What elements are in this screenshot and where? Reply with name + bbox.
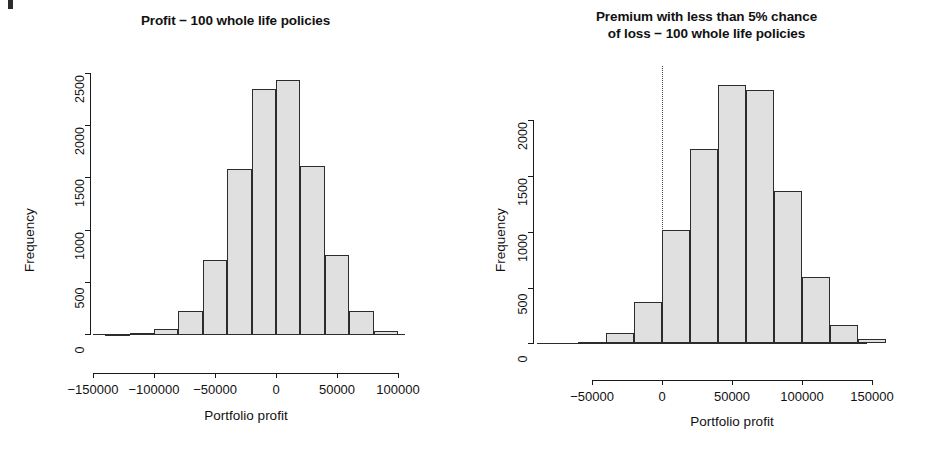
x-tick-50000-right	[732, 380, 733, 385]
histogram-bar	[105, 334, 129, 336]
chart-title-right-line1: Premium with less than 5% chance	[471, 8, 942, 25]
histogram-bar	[374, 331, 398, 335]
y-axis-line-right	[533, 120, 534, 344]
y-tick-label-500-right: 500	[516, 289, 530, 319]
x-tick-n50000-right	[592, 380, 593, 385]
y-tick-label-1500-right: 1500	[516, 177, 530, 207]
chart-title-left: Profit − 100 whole life policies	[0, 12, 471, 29]
histogram-bar	[203, 260, 227, 335]
y-tick-label-2000-left: 2000	[73, 126, 87, 156]
y-tick-label-1500-left: 1500	[73, 178, 87, 208]
x-tick-n50000-left	[215, 373, 216, 378]
x-tick-100000-left	[398, 373, 399, 378]
y-axis-label-left: Frequency	[22, 208, 37, 272]
x-tick-label-50000-right: 50000	[692, 389, 772, 404]
y-axis-line-left	[90, 73, 91, 335]
x-tick-n150000-left	[93, 373, 94, 378]
histogram-bar	[830, 325, 858, 343]
x-tick-label-100000-left: 100000	[358, 382, 438, 397]
y-tick-label-2000-right: 2000	[516, 121, 530, 151]
histogram-bar	[300, 166, 324, 335]
x-tick-0-left	[276, 373, 277, 378]
y-tick-label-0-right: 0	[516, 344, 530, 374]
histogram-bar	[178, 311, 202, 336]
histogram-bar	[662, 230, 690, 343]
y-axis-label-right: Frequency	[493, 208, 508, 272]
histogram-bar	[606, 333, 634, 343]
y-tick-label-1000-left: 1000	[73, 231, 87, 261]
x-tick-0-right	[662, 380, 663, 385]
figure-container: Profit − 100 whole life policies Frequen…	[0, 0, 943, 449]
y-tick-label-0-left: 0	[73, 335, 87, 365]
x-axis-label-left: Portfolio profit	[146, 408, 346, 423]
histogram-bar	[802, 277, 830, 343]
x-tick-50000-left	[337, 373, 338, 378]
chart-title-right: Premium with less than 5% chance of loss…	[471, 8, 942, 42]
x-tick-100000-right	[802, 380, 803, 385]
x-axis-line-left	[93, 373, 399, 374]
histogram-bar	[349, 311, 373, 336]
histogram-bar	[130, 333, 154, 335]
histogram-bar	[774, 191, 802, 343]
chart-panel-left: Profit − 100 whole life policies Frequen…	[0, 0, 471, 449]
histogram-bar	[325, 255, 349, 335]
x-axis-label-right: Portfolio profit	[632, 414, 832, 429]
x-tick-150000-right	[872, 380, 873, 385]
chart-title-right-line2: of loss − 100 whole life policies	[471, 25, 942, 42]
x-tick-label-0-right: 0	[622, 389, 702, 404]
histogram-bar	[227, 169, 251, 336]
x-tick-label-100000-right: 100000	[762, 389, 842, 404]
chart-panel-right: Premium with less than 5% chance of loss…	[471, 0, 942, 449]
histogram-bar	[718, 85, 746, 343]
histogram-bar	[634, 302, 662, 343]
y-tick-label-2500-left: 2500	[73, 74, 87, 104]
x-tick-n100000-left	[154, 373, 155, 378]
x-tick-label-n50000-right: −50000	[552, 389, 632, 404]
histogram-bar	[858, 339, 886, 343]
y-tick-label-1000-right: 1000	[516, 233, 530, 263]
histogram-bar	[252, 89, 276, 335]
histogram-bar	[276, 80, 300, 335]
histogram-bar	[154, 329, 178, 335]
y-tick-label-500-left: 500	[73, 283, 87, 313]
histogram-bar	[690, 149, 718, 343]
histogram-bar	[578, 342, 606, 344]
histogram-bar	[746, 90, 774, 343]
x-tick-label-150000-right: 150000	[832, 389, 912, 404]
